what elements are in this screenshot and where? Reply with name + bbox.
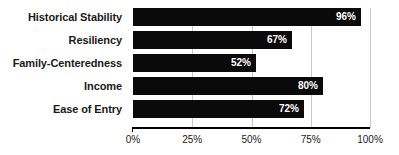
bar-row: 96% — [133, 8, 370, 26]
x-axis-line — [132, 127, 370, 129]
bar-value-label: 52% — [224, 54, 251, 72]
plot-area: 96%67%52%80%72% — [133, 8, 370, 128]
bar-value-label: 96% — [329, 8, 356, 26]
gridline-100% — [370, 8, 371, 128]
x-tick-label: 0% — [126, 133, 140, 147]
bar-row: 67% — [133, 31, 370, 49]
x-tick-label: 50% — [241, 133, 261, 147]
bar-row: 52% — [133, 54, 370, 72]
category-axis: Historical StabilityResiliencyFamily-Cen… — [0, 8, 128, 128]
bar-chart: Historical StabilityResiliencyFamily-Cen… — [0, 0, 399, 155]
x-axis-origin-tick — [132, 127, 133, 132]
x-axis-labels: 0%25%50%75%100% — [0, 133, 399, 149]
bar-row: 80% — [133, 77, 370, 95]
category-label: Income — [84, 77, 122, 95]
x-tick-label: 25% — [182, 133, 202, 147]
bar — [133, 8, 361, 26]
category-label: Ease of Entry — [53, 100, 122, 118]
bar-value-label: 72% — [272, 100, 299, 118]
x-tick-label: 75% — [301, 133, 321, 147]
category-label: Family-Centeredness — [13, 54, 122, 72]
bar-value-label: 67% — [260, 31, 287, 49]
category-label: Historical Stability — [28, 8, 122, 26]
x-tick-label: 100% — [357, 133, 383, 147]
bar-row: 72% — [133, 100, 370, 118]
bar-value-label: 80% — [291, 77, 318, 95]
category-label: Resiliency — [69, 31, 122, 49]
